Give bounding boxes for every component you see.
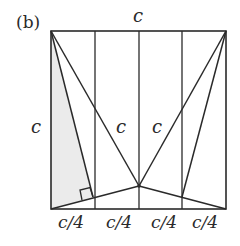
bottom-label-2: c/4 — [106, 212, 132, 232]
bottom-label-4: c/4 — [192, 212, 218, 232]
panel-label: (b) — [16, 12, 40, 32]
top-right-to-foot — [182, 31, 226, 197]
bottom-label-1: c/4 — [58, 212, 84, 232]
bottom-label-3: c/4 — [151, 212, 177, 232]
apex-point — [137, 184, 141, 188]
inner-left-label: c — [116, 116, 126, 137]
geometry-diagram: (b) c c c c c/4 c/4 c/4 c/4 — [0, 0, 240, 246]
left-side-label: c — [31, 116, 41, 137]
top-side-label: c — [133, 5, 143, 26]
inner-right-label: c — [152, 116, 162, 137]
